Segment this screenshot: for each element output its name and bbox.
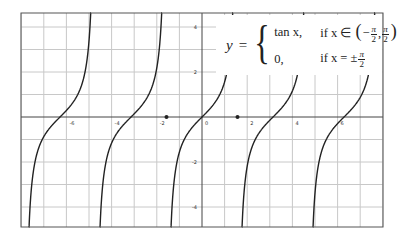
case-zero-condition: if x = ±π2: [320, 50, 366, 69]
svg-text:-6: -6: [69, 120, 74, 126]
case-zero-cond-prefix: if x = ±: [320, 51, 357, 65]
fraction-pi-over-2: π2: [382, 25, 389, 44]
svg-text:-2: -2: [192, 159, 197, 165]
fraction-pi-over-2: π2: [358, 50, 365, 69]
formula-equals: =: [239, 37, 247, 54]
case-tan-cond-prefix: if x ∈: [320, 26, 351, 40]
svg-text:-4: -4: [192, 204, 197, 210]
comma: ,: [378, 26, 381, 40]
case-zero: 0, if x = ±π2: [274, 50, 397, 69]
frac-den: 2: [359, 60, 364, 69]
frac-den: 2: [383, 35, 388, 44]
case-tan: tan x, if x ∈ (−π2,π2): [274, 21, 397, 44]
case-tan-condition: if x ∈ (−π2,π2): [320, 21, 397, 44]
formula-annotation: y = { tan x, if x ∈ (−π2,π2) 0, if x = ±…: [216, 15, 382, 75]
right-paren: ): [391, 21, 397, 41]
left-paren: (: [356, 21, 362, 41]
minus-sign: −: [363, 26, 370, 40]
svg-text:2: 2: [194, 69, 197, 75]
svg-text:-4: -4: [115, 120, 120, 126]
svg-text:-2: -2: [160, 120, 165, 126]
fraction-pi-over-2: π2: [371, 25, 378, 44]
formula-brace: {: [254, 20, 269, 66]
svg-text:4: 4: [194, 24, 197, 30]
case-zero-expr: 0,: [274, 52, 320, 67]
formula-lhs: y: [226, 37, 233, 54]
formula-cases: tan x, if x ∈ (−π2,π2) 0, if x = ±π2: [274, 21, 397, 69]
frac-den: 2: [372, 35, 377, 44]
svg-text:0: 0: [205, 120, 208, 126]
case-tan-expr: tan x,: [274, 25, 320, 40]
svg-text:4: 4: [295, 120, 298, 126]
svg-text:2: 2: [250, 120, 253, 126]
